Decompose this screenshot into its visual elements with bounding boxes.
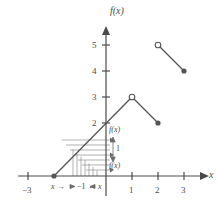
y-tick-label-3: 3 (92, 93, 97, 102)
x-tick-label-2: 2 (155, 186, 160, 195)
x-tick-label-3: 3 (181, 186, 186, 195)
marker-closed-x2y2 (155, 120, 160, 125)
fx-upper-label: f(x) (109, 126, 120, 134)
x-tick-label-1: 1 (129, 186, 134, 195)
fx-lower-label: f(x) (109, 162, 120, 170)
curve-falling-segment (132, 97, 158, 123)
x-axis-label: x (209, 170, 213, 180)
marker-open-x2y5 (155, 42, 161, 48)
marker-closed-origin-left (51, 173, 56, 178)
marker-open-peak (129, 94, 135, 100)
delta-one-double-arrow (111, 137, 115, 162)
x-right-arrow-label: ← x (88, 183, 102, 191)
function-graph-figure: f(x) x 5 4 3 2 −3 1 2 3 x → −1 ← x f(x) … (0, 0, 218, 217)
y-axis-arrowhead (102, 26, 110, 35)
curve-rising-ray (54, 97, 132, 176)
minus-one-label: −1 (77, 183, 86, 191)
y-tick-label-5: 5 (92, 41, 97, 50)
delta-one-label: 1 (116, 145, 120, 153)
x-tick-label-minus-3: −3 (22, 186, 32, 195)
marker-closed-x3y4 (181, 68, 186, 73)
y-tick-label-2: 2 (92, 119, 97, 128)
y-tick-label-4: 4 (92, 67, 97, 76)
x-left-arrow-label: x → (51, 183, 65, 191)
x-axis-arrowhead (200, 172, 209, 180)
curve-upper-segment (158, 45, 184, 71)
y-axis-label: f(x) (110, 6, 124, 16)
